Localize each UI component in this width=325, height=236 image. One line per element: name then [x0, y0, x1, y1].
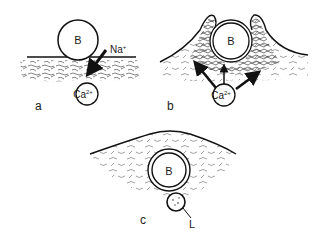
- small-body-label: L: [189, 218, 195, 230]
- bead-label: B: [74, 34, 81, 46]
- diagram-figure: B Na+ Ca2+ a B Ca2+ b: [0, 0, 325, 236]
- bead-label: B: [227, 35, 234, 47]
- sodium-label: Na+: [110, 44, 127, 55]
- panel-label-a: a: [35, 99, 42, 113]
- tissue-layer: [20, 60, 140, 82]
- bead-label: B: [165, 165, 172, 177]
- bead: B: [58, 20, 98, 60]
- panel-label-c: c: [140, 213, 146, 227]
- bead: B: [210, 20, 252, 62]
- panel-label-b: b: [167, 99, 174, 113]
- panel-c: B L c: [90, 131, 236, 230]
- small-body: L: [167, 193, 195, 230]
- bead: B: [148, 149, 190, 191]
- panel-a: B Na+ Ca2+ a: [20, 20, 140, 113]
- calcium-ion: Ca2+: [73, 83, 98, 105]
- panel-b: B Ca2+ b: [160, 15, 308, 113]
